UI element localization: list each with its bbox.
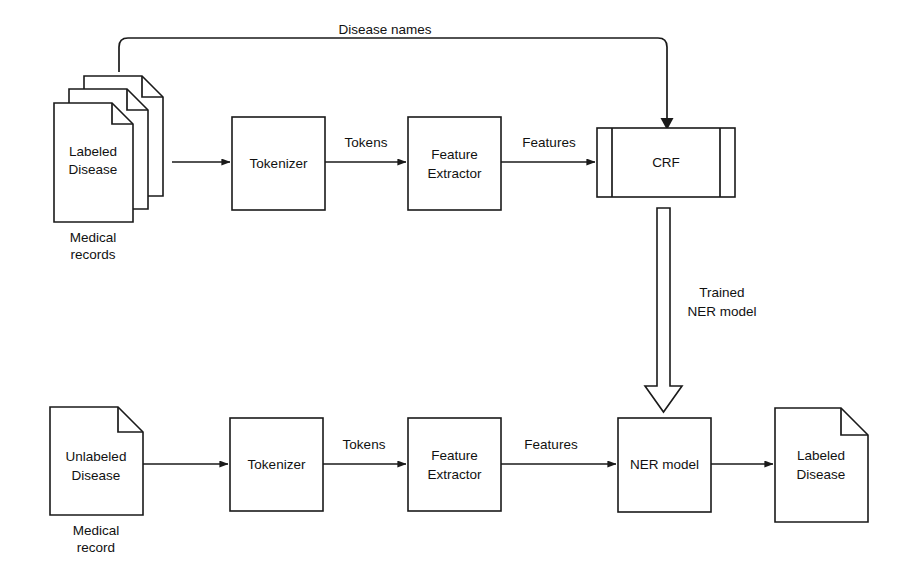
labeled-disease-output-label-line2: Disease	[797, 467, 846, 482]
feature-extractor-box-top	[408, 117, 501, 210]
labeled-disease-caption-line2: records	[70, 247, 115, 262]
feature-extractor-label-top-line2: Extractor	[427, 166, 482, 181]
tokenizer-label-top: Tokenizer	[250, 156, 308, 171]
feature-extractor-label-bottom-line2: Extractor	[427, 467, 482, 482]
labeled-disease-output-document: Labeled Disease	[775, 408, 868, 522]
labeled-disease-label-line1: Labeled	[69, 144, 117, 159]
unlabeled-disease-label-line1: Unlabeled	[66, 449, 127, 464]
diagram-canvas: Disease names Labeled Disease Medical re…	[0, 0, 917, 567]
unlabeled-disease-label-line2: Disease	[72, 468, 121, 483]
labeled-disease-document-stack: Labeled Disease	[54, 76, 163, 222]
tokenizer-label-bottom: Tokenizer	[248, 457, 306, 472]
edge-label-features-top: Features	[522, 135, 576, 150]
crf-box: CRF	[597, 128, 735, 197]
labeled-disease-caption-line1: Medical	[70, 230, 117, 245]
edge-label-features-bottom: Features	[524, 437, 578, 452]
edge-label-disease-names: Disease names	[338, 22, 431, 37]
trained-ner-model-label-line2: NER model	[687, 304, 756, 319]
trained-model-block-arrow-icon	[645, 208, 682, 412]
labeled-disease-output-label-line1: Labeled	[797, 448, 845, 463]
trained-ner-model-label-line1: Trained	[699, 285, 744, 300]
labeled-disease-label-line2: Disease	[69, 162, 118, 177]
feedback-connector-disease-names	[119, 38, 667, 118]
edge-label-tokens-bottom: Tokens	[343, 437, 386, 452]
feature-extractor-label-top-line1: Feature	[431, 147, 478, 162]
feature-extractor-label-bottom-line1: Feature	[431, 448, 478, 463]
feature-extractor-box-bottom	[408, 418, 501, 511]
document-sheet-output	[775, 408, 868, 522]
ner-pipeline-diagram: Disease names Labeled Disease Medical re…	[0, 0, 917, 567]
unlabeled-disease-caption-line2: record	[77, 540, 115, 555]
crf-label: CRF	[652, 155, 680, 170]
ner-model-label: NER model	[630, 457, 699, 472]
unlabeled-disease-document: Unlabeled Disease	[50, 407, 143, 515]
unlabeled-disease-caption-line1: Medical	[73, 523, 120, 538]
edge-label-tokens-top: Tokens	[345, 135, 388, 150]
